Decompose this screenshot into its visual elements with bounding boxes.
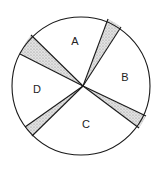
sector-label-b: B <box>121 71 128 83</box>
wedge-right <box>83 86 146 128</box>
wedge-top-right <box>83 19 121 86</box>
sector-label-a: A <box>71 35 79 47</box>
sector-label-c: C <box>82 118 90 130</box>
sector-diagram: ABCD <box>0 0 162 172</box>
wedge-right-edge-2 <box>83 86 139 128</box>
sector-label-d: D <box>33 83 41 95</box>
wedge-right-edge-1 <box>83 86 146 116</box>
